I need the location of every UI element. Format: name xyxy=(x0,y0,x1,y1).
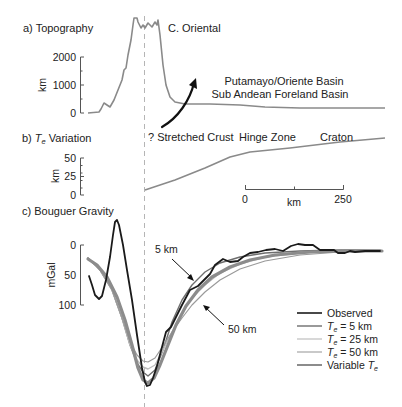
panel-a-topography: a) Topography 2000 1000 0 km C. Oriental… xyxy=(23,18,385,127)
annotation-50km: 50 km xyxy=(228,323,257,335)
scale-bar-start: 0 xyxy=(242,193,248,205)
panel-c-bouguer-gravity: c) Bouguer Gravity 0 50 100 mGal 5 km 50… xyxy=(22,205,382,386)
panel-c-title: c) Bouguer Gravity xyxy=(22,205,114,217)
hinge-zone-label: Hinge Zone xyxy=(239,131,296,143)
scale-bar xyxy=(246,185,344,190)
legend-label-te25: Te = 25 km xyxy=(327,333,378,346)
panel-b-ylabel: km xyxy=(49,169,61,183)
panel-c-tick-100: 100 xyxy=(58,299,76,311)
legend: Observed Te = 5 km Te = 25 km Te = 50 km… xyxy=(297,307,378,372)
panel-b-te-variation: b) Te Variation 50 25 0 km ? Stretched C… xyxy=(22,131,385,208)
te-line xyxy=(145,138,385,190)
scale-bar-unit: km xyxy=(287,196,301,208)
annotation-50km-arrow xyxy=(205,307,224,325)
stretched-crust-label: ? Stretched Crust xyxy=(148,131,234,143)
basin-label-line1: Putamayo/Oriente Basin xyxy=(224,75,343,87)
panel-c-tick-50: 50 xyxy=(64,269,76,281)
figure: a) Topography 2000 1000 0 km C. Oriental… xyxy=(0,0,402,407)
legend-label-variable: Variable Te xyxy=(327,359,378,372)
panel-b-title: b) Te Variation xyxy=(22,132,91,146)
panel-b-y-axis xyxy=(81,158,85,195)
panel-c-ylabel: mGal xyxy=(45,262,57,287)
c-oriental-label: C. Oriental xyxy=(168,22,221,34)
panel-b-tick-25: 25 xyxy=(64,170,76,182)
panel-b-tick-50: 50 xyxy=(64,152,76,164)
panel-a-tick-1000: 1000 xyxy=(53,79,77,91)
scale-bar-end: 250 xyxy=(334,193,352,205)
annotation-5km-arrow xyxy=(172,259,192,278)
panel-a-ylabel: km xyxy=(36,78,48,92)
panel-b-tick-0: 0 xyxy=(70,189,76,201)
annotation-5km: 5 km xyxy=(155,243,178,255)
legend-label-observed: Observed xyxy=(327,307,373,319)
craton-label: Craton xyxy=(320,131,353,143)
panel-c-y-axis xyxy=(81,245,85,305)
panel-c-tick-0: 0 xyxy=(70,239,76,251)
panel-a-tick-0: 0 xyxy=(70,107,76,119)
basin-label-line2: Sub Andean Foreland Basin xyxy=(212,88,349,100)
panel-a-title: a) Topography xyxy=(23,22,94,34)
panel-a-tick-2000: 2000 xyxy=(53,51,77,63)
legend-label-te50: Te = 50 km xyxy=(327,346,378,359)
panel-a-y-axis xyxy=(81,57,85,113)
legend-label-te5: Te = 5 km xyxy=(327,320,372,333)
arrow-head-icon xyxy=(187,274,194,281)
